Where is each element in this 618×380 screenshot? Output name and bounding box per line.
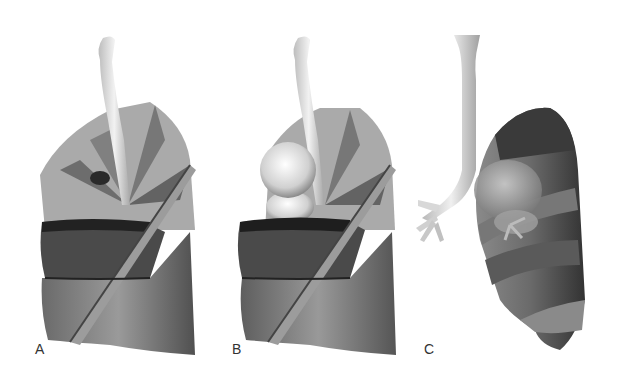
- lung-rendering-c: [410, 0, 618, 380]
- panel-label-b: B: [232, 341, 241, 357]
- panel-c: C: [410, 0, 618, 380]
- panel-label-c: C: [424, 341, 434, 357]
- lung-rendering-a: [0, 0, 210, 380]
- lung-rendering-b: [210, 0, 410, 380]
- panel-a: A: [0, 0, 210, 380]
- panel-b: B: [210, 0, 410, 380]
- panel-label-a: A: [35, 341, 44, 357]
